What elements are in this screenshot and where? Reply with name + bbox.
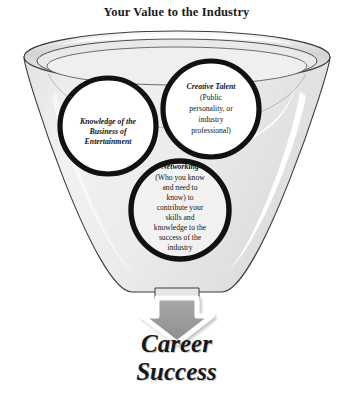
circle-knowledge[interactable]: Knowledge of the Business of Entertainme… [60,78,156,174]
circle-networking-line-1: (Who you know [155,173,205,182]
circle-networking-line-4: contribute your [157,203,204,212]
circle-creative-talent-line-2: personality, or [189,104,233,113]
circle-creative-talent-line-4: professional) [191,126,231,135]
circle-networking-line-5: skills and [166,213,195,222]
circle-networking-line-3: know) to [166,193,193,202]
circle-knowledge-heading: Knowledge of the [79,117,136,126]
outcome-line-1: Career [0,330,353,358]
circle-networking-line-2: and need to [162,183,197,192]
circle-knowledge-line-2: Entertainment [84,137,133,146]
circle-knowledge-line-1: Business of [88,127,127,136]
circle-creative-talent[interactable]: Creative Talent (Public personality, or … [163,61,259,157]
circle-networking-line-8: industry [168,243,193,252]
circle-networking[interactable]: Networking (Who you know and need to kno… [131,161,229,259]
circle-creative-talent-heading: Creative Talent [187,82,237,91]
circle-creative-talent-line-3: industry [199,115,224,124]
outcome-line-2: Success [0,358,353,386]
circle-networking-line-7: success of the [159,233,202,242]
circle-creative-talent-line-1: (Public [200,93,223,102]
value-to-industry-diagram: Your Value to the Industry [0,0,353,397]
circle-networking-line-6: knowledge to the [154,223,207,232]
circle-knowledge-outline[interactable] [60,78,156,174]
circle-networking-heading: Networking [160,162,199,171]
